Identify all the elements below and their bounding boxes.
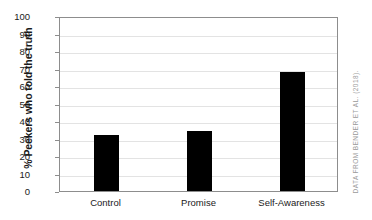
bar: [187, 131, 212, 191]
bar-chart-figure: % Peekers who told the truth 01020304050…: [0, 0, 372, 220]
y-axis-tick-label: 90: [0, 30, 30, 40]
x-axis-tick-label: Promise: [181, 197, 216, 208]
y-axis-tick-mark: [55, 192, 59, 193]
y-axis-tick-label: 70: [0, 65, 30, 75]
source-note: DATA FROM BENDER ET AL. (2018).: [352, 54, 359, 194]
gridline: [60, 36, 337, 37]
gridline: [60, 53, 337, 54]
y-axis-tick-label: 100: [0, 12, 30, 22]
y-axis-tick-label: 60: [0, 82, 30, 92]
x-axis-tick-label: Control: [90, 197, 121, 208]
y-axis-tick-label: 50: [0, 100, 30, 110]
y-axis-tick-label: 80: [0, 47, 30, 57]
x-axis-tick-label: Self-Awareness: [258, 197, 324, 208]
y-axis-tick-label: 0: [0, 187, 30, 197]
bar: [280, 72, 305, 191]
y-axis-tick-label: 20: [0, 152, 30, 162]
plot-area: [59, 17, 338, 192]
bar: [94, 135, 119, 191]
y-axis-tick-label: 10: [0, 170, 30, 180]
y-axis-tick-label: 40: [0, 117, 30, 127]
y-axis-tick-label: 30: [0, 135, 30, 145]
